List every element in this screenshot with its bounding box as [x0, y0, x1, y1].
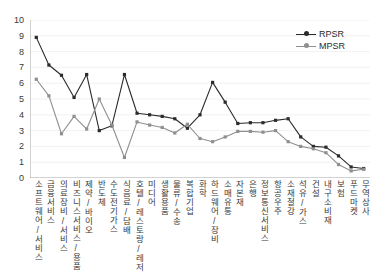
- x-axis-tick-label: 소프트웨어/서비스: [31, 180, 42, 262]
- x-axis-tick-label: 소재철강: [283, 180, 294, 216]
- x-axis-tick-label: 내구소비재: [320, 180, 331, 225]
- data-point: [274, 129, 277, 132]
- y-axis-tick-label: 0: [2, 174, 24, 183]
- x-axis-tick-label: 보험: [333, 180, 344, 198]
- data-point: [312, 147, 315, 150]
- data-point: [287, 117, 290, 120]
- data-point: [123, 156, 126, 159]
- data-point: [299, 145, 302, 148]
- x-axis-tick-label: 건설: [308, 180, 319, 198]
- x-axis-tick-label: 하드웨어/장비: [207, 180, 218, 244]
- data-point: [72, 96, 75, 99]
- data-point: [274, 119, 277, 122]
- data-point: [350, 165, 353, 168]
- y-axis: 012345678910: [0, 20, 26, 178]
- data-point: [47, 63, 50, 66]
- x-axis-tick-label: 자본재: [232, 180, 243, 207]
- chart-container: 012345678910 소프트웨어/서비스금융서비스의료장비/서비스비즈니스서…: [0, 0, 376, 276]
- data-point: [173, 117, 176, 120]
- data-point: [362, 168, 365, 171]
- x-axis-tick-label: 정보통신서비스: [257, 180, 268, 243]
- data-point: [324, 151, 327, 154]
- data-point: [324, 146, 327, 149]
- x-axis-tick-label: 소매유통: [220, 180, 231, 216]
- x-axis-tick-label: 미디어: [144, 180, 155, 207]
- data-point: [161, 126, 164, 129]
- series-line-mpsr: [36, 79, 363, 171]
- data-point: [173, 131, 176, 134]
- data-point: [35, 78, 38, 81]
- data-point: [148, 113, 151, 116]
- y-axis-tick-label: 4: [2, 110, 24, 119]
- x-axis-tick-label: 금융서비스: [43, 180, 54, 225]
- data-point: [224, 135, 227, 138]
- x-axis-tick-label: 호텔/레스토랑/레저: [132, 180, 143, 272]
- y-axis-tick-label: 9: [2, 31, 24, 40]
- x-axis-tick-label: 의료장비/서비스: [56, 180, 67, 253]
- legend-item-rpsr: RPSR: [296, 28, 345, 40]
- data-point: [337, 154, 340, 157]
- data-point: [350, 169, 353, 172]
- data-point: [110, 123, 113, 126]
- data-point: [135, 112, 138, 115]
- data-point: [261, 121, 264, 124]
- x-axis-tick-label: 항공우주: [270, 180, 281, 216]
- data-point: [261, 131, 264, 134]
- data-point: [198, 113, 201, 116]
- y-axis-tick-label: 7: [2, 63, 24, 72]
- x-axis-tick-label: 물류/수송: [169, 180, 180, 226]
- x-axis-tick-label: 은행: [245, 180, 256, 198]
- data-point: [299, 135, 302, 138]
- y-axis-tick-label: 3: [2, 126, 24, 135]
- y-axis-tick-label: 6: [2, 79, 24, 88]
- data-point: [85, 127, 88, 130]
- x-axis-tick-label: 화학: [195, 180, 206, 198]
- data-point: [186, 127, 189, 130]
- x-axis-tick-label: 수도전기가스: [106, 180, 117, 234]
- y-axis-tick-label: 10: [2, 16, 24, 25]
- legend-item-mpsr: MPSR: [296, 40, 345, 52]
- x-axis-tick-label: 식음료/담배: [119, 180, 130, 235]
- x-axis: 소프트웨어/서비스금융서비스의료장비/서비스비즈니스서비스/용품제약/바이오반도…: [30, 180, 370, 276]
- data-point: [161, 115, 164, 118]
- data-point: [98, 129, 101, 132]
- data-point: [287, 140, 290, 143]
- data-point: [135, 120, 138, 123]
- data-point: [211, 140, 214, 143]
- data-point: [35, 36, 38, 39]
- data-point: [236, 130, 239, 133]
- x-axis-tick-label: 무역상사: [358, 180, 369, 216]
- data-point: [211, 81, 214, 84]
- data-point: [249, 121, 252, 124]
- data-point: [72, 115, 75, 118]
- legend-label-rpsr: RPSR: [319, 30, 344, 39]
- legend-swatch-rpsr: [296, 30, 316, 39]
- y-axis-tick-label: 5: [2, 95, 24, 104]
- data-point: [85, 73, 88, 76]
- data-point: [60, 132, 63, 135]
- data-point: [186, 123, 189, 126]
- x-axis-tick-label: 석유/가스: [295, 180, 306, 226]
- chart-legend: RPSR MPSR: [296, 28, 345, 52]
- y-axis-tick-label: 2: [2, 142, 24, 151]
- data-point: [148, 123, 151, 126]
- legend-swatch-mpsr: [296, 42, 316, 51]
- x-axis-tick-label: 반도체: [94, 180, 105, 207]
- x-axis-tick-label: 제약/바이오: [81, 180, 92, 235]
- x-axis-tick-label: 복합기업: [182, 180, 193, 216]
- legend-label-mpsr: MPSR: [319, 42, 345, 51]
- data-point: [236, 122, 239, 125]
- data-point: [198, 137, 201, 140]
- data-point: [60, 74, 63, 77]
- data-point: [249, 130, 252, 133]
- data-point: [337, 163, 340, 166]
- data-point: [98, 97, 101, 100]
- y-axis-tick-label: 1: [2, 158, 24, 167]
- data-point: [47, 94, 50, 97]
- y-axis-tick-label: 8: [2, 47, 24, 56]
- x-axis-tick-label: 생활용품: [157, 180, 168, 216]
- x-axis-tick-label: 푸드마켓: [346, 180, 357, 216]
- data-point: [123, 73, 126, 76]
- x-axis-tick-label: 비즈니스서비스/용품: [69, 180, 80, 271]
- data-point: [224, 101, 227, 104]
